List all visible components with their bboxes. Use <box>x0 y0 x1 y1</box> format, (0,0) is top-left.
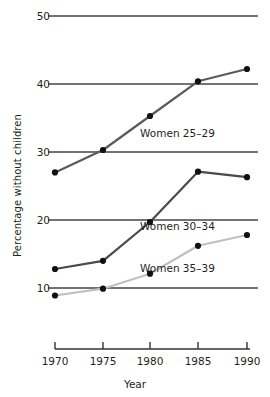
data-point <box>195 169 201 175</box>
data-point <box>195 78 201 84</box>
data-point <box>195 243 201 249</box>
series-annotation-women-25-29: Women 25–29 <box>140 127 215 139</box>
chart-plot-area <box>0 0 270 397</box>
y-axis-tick-label-10: 10 <box>24 282 50 294</box>
data-point <box>147 113 153 119</box>
x-axis <box>55 342 250 349</box>
y-axis-tick-label-30: 30 <box>24 146 50 158</box>
data-point <box>100 286 106 292</box>
y-axis-tick-label-20: 20 <box>24 214 50 226</box>
y-axis-tick-label-40: 40 <box>24 78 50 90</box>
series-1 <box>52 66 250 176</box>
data-point <box>52 292 58 298</box>
x-axis-tick-label-1975: 1975 <box>81 355 125 367</box>
chart-figure: Percentage without children 50 40 30 20 … <box>0 0 270 397</box>
gridlines <box>48 16 258 288</box>
x-axis-label: Year <box>0 378 270 390</box>
x-axis-tick-label-1980: 1980 <box>128 355 172 367</box>
data-point <box>244 66 250 72</box>
series-annotation-women-30-34: Women 30–34 <box>140 220 215 232</box>
data-point <box>52 169 58 175</box>
x-axis-tick-label-1990: 1990 <box>225 355 269 367</box>
data-point <box>244 232 250 238</box>
data-point <box>52 266 58 272</box>
x-axis-tick-label-1985: 1985 <box>176 355 220 367</box>
data-point <box>100 147 106 153</box>
x-axis-tick-label-1970: 1970 <box>33 355 77 367</box>
y-axis-label: Percentage without children <box>12 86 23 286</box>
series-annotation-women-35-39: Women 35–39 <box>140 262 215 274</box>
data-point <box>100 258 106 264</box>
y-axis-tick-label-50: 50 <box>24 10 50 22</box>
data-point <box>244 174 250 180</box>
